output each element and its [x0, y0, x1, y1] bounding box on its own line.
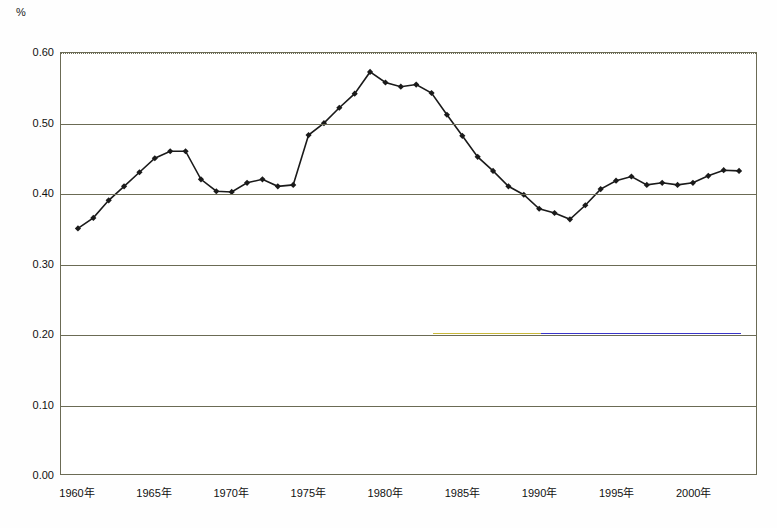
x-tick-label: 1965年	[136, 484, 171, 500]
blue-reference-line	[510, 333, 741, 334]
x-tick-label: 1985年	[445, 484, 480, 500]
y-tick-label: 0.40	[8, 187, 54, 199]
series-line	[61, 53, 756, 474]
x-tick-label: 1975年	[291, 484, 326, 500]
chart-root: % 0.000.100.200.300.400.500.60 1960年1965…	[0, 0, 777, 528]
x-tick-label: 1980年	[368, 484, 403, 500]
y-axis-unit-label: %	[16, 6, 26, 18]
x-tick-label: 2000年	[676, 484, 711, 500]
x-tick-label: 1960年	[59, 484, 94, 500]
x-tick-label: 1995年	[599, 484, 634, 500]
y-tick-label: 0.10	[8, 399, 54, 411]
y-tick-label: 0.50	[8, 117, 54, 129]
yellow-reference-line	[433, 333, 541, 334]
x-tick-label: 1990年	[522, 484, 557, 500]
gridline	[61, 406, 756, 407]
y-tick-label: 0.00	[8, 469, 54, 481]
gridline	[61, 194, 756, 195]
gridline	[61, 335, 756, 336]
y-tick-label: 0.60	[8, 46, 54, 58]
x-tick-label: 1970年	[213, 484, 248, 500]
gridline	[61, 265, 756, 266]
gridline	[61, 53, 756, 54]
y-tick-label: 0.20	[8, 328, 54, 340]
gridline	[61, 124, 756, 125]
plot-area	[60, 52, 757, 475]
y-tick-label: 0.30	[8, 258, 54, 270]
